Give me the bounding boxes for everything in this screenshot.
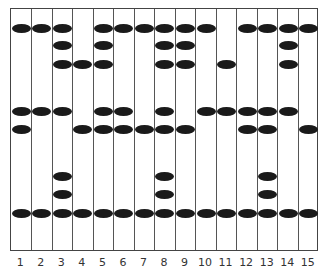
bead <box>155 41 174 50</box>
bead <box>155 107 174 116</box>
bead <box>155 60 174 69</box>
bead <box>258 172 277 181</box>
column-13 <box>257 9 278 250</box>
bead <box>279 41 298 50</box>
bead <box>217 60 236 69</box>
bead <box>12 125 31 134</box>
column-5 <box>93 9 114 250</box>
column-14 <box>278 9 299 250</box>
bead <box>238 107 257 116</box>
bead <box>53 107 72 116</box>
column-label: 10 <box>195 256 215 269</box>
bead <box>176 41 195 50</box>
bead <box>176 209 195 218</box>
bead <box>217 209 236 218</box>
column-label: 6 <box>113 256 133 269</box>
bead <box>197 209 216 218</box>
bead <box>32 209 51 218</box>
bead <box>94 41 113 50</box>
bead <box>155 209 174 218</box>
column-12 <box>237 9 258 250</box>
bead <box>176 60 195 69</box>
bead <box>53 172 72 181</box>
bead <box>53 190 72 199</box>
bead <box>155 172 174 181</box>
column-1 <box>11 9 32 250</box>
bead <box>32 24 51 33</box>
column-9 <box>175 9 196 250</box>
bead <box>135 125 154 134</box>
column-label: 3 <box>51 256 71 269</box>
bead <box>73 60 92 69</box>
column-11 <box>216 9 237 250</box>
column-label: 15 <box>298 256 318 269</box>
bead <box>12 209 31 218</box>
bead <box>217 107 236 116</box>
bead <box>135 24 154 33</box>
bead <box>258 125 277 134</box>
bead <box>32 107 51 116</box>
bead <box>73 125 92 134</box>
column-8 <box>155 9 176 250</box>
bead <box>299 209 318 218</box>
bead <box>258 107 277 116</box>
column-label: 2 <box>31 256 51 269</box>
bead <box>155 24 174 33</box>
column-label: 1 <box>10 256 30 269</box>
bead <box>73 209 92 218</box>
column-label: 8 <box>154 256 174 269</box>
bead <box>197 24 216 33</box>
bead <box>12 24 31 33</box>
bead <box>94 24 113 33</box>
column-10 <box>196 9 217 250</box>
column-label: 4 <box>72 256 92 269</box>
column-6 <box>114 9 135 250</box>
bead <box>238 24 257 33</box>
column-label: 9 <box>175 256 195 269</box>
bead <box>299 125 318 134</box>
bead <box>155 125 174 134</box>
bead <box>238 209 257 218</box>
bead <box>53 209 72 218</box>
bead <box>279 60 298 69</box>
bead <box>258 24 277 33</box>
bead <box>258 209 277 218</box>
column-2 <box>32 9 53 250</box>
column-label: 5 <box>92 256 112 269</box>
column-3 <box>52 9 73 250</box>
bead <box>176 125 195 134</box>
bead <box>279 107 298 116</box>
bead <box>197 107 216 116</box>
bead <box>94 209 113 218</box>
grid-frame <box>10 8 318 251</box>
column-label: 12 <box>236 256 256 269</box>
column-4 <box>73 9 94 250</box>
bead <box>94 125 113 134</box>
column-label: 14 <box>277 256 297 269</box>
column-15 <box>298 9 319 250</box>
bead <box>135 209 154 218</box>
bead <box>176 24 195 33</box>
bead <box>53 24 72 33</box>
bead <box>94 60 113 69</box>
bead <box>53 60 72 69</box>
bead <box>299 24 318 33</box>
bead <box>279 24 298 33</box>
bead <box>258 190 277 199</box>
bead <box>114 107 133 116</box>
bead <box>279 209 298 218</box>
column-label: 11 <box>216 256 236 269</box>
column-label: 13 <box>257 256 277 269</box>
column-label: 7 <box>133 256 153 269</box>
column-7 <box>134 9 155 250</box>
bead <box>12 107 31 116</box>
bead <box>114 125 133 134</box>
bead <box>238 125 257 134</box>
bead <box>155 190 174 199</box>
bead <box>114 209 133 218</box>
bead <box>114 24 133 33</box>
bead <box>94 107 113 116</box>
bead <box>53 41 72 50</box>
